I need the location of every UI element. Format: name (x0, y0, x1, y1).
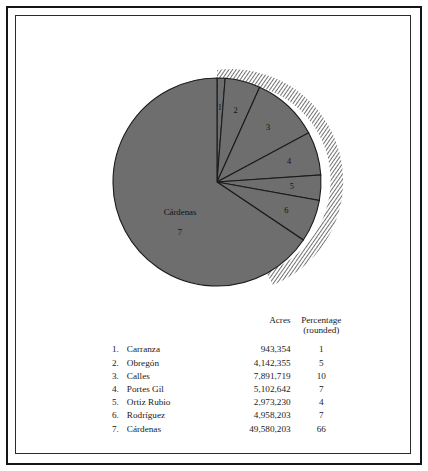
pie-slice-label-6: 6 (284, 206, 288, 215)
header-rank (112, 316, 125, 326)
pie-chart-figure: 123456 Cárdenas 7 (0, 40, 428, 308)
pie-slice-label-5: 5 (290, 182, 294, 191)
pie-slice-label-1: 1 (218, 103, 222, 112)
row-percentage: 5 (291, 355, 352, 368)
row-percentage: 1 (291, 341, 352, 354)
row-acres: 4,142,355 (217, 355, 290, 368)
row-acres: 943,354 (217, 341, 290, 354)
header-acres: Acres (217, 316, 290, 326)
row-name: Rodríguez (125, 407, 218, 420)
row-name: Ortiz Rubio (125, 394, 218, 407)
pie-slice-label-3: 3 (266, 123, 270, 132)
row-name: Carranza (125, 341, 218, 354)
table-head: Acres Percentage (rounded) (112, 316, 352, 341)
header-percentage-sub: (rounded) (291, 326, 352, 341)
table-row: 3. Calles 7,891,719 10 (112, 368, 352, 381)
row-percentage: 7 (291, 407, 352, 420)
header-rank-spacer (112, 326, 125, 341)
header-name (125, 316, 218, 326)
table-row: 2. Obregón 4,142,355 5 (112, 355, 352, 368)
row-name: Obregón (125, 355, 218, 368)
row-acres: 7,891,719 (217, 368, 290, 381)
row-rank: 4. (112, 381, 125, 394)
land-distribution-table: Acres Percentage (rounded) 1. Carranza 9… (112, 316, 352, 434)
table-header-row-2: (rounded) (112, 326, 352, 341)
row-acres: 2,973,230 (217, 394, 290, 407)
pie-chart-svg: 123456 Cárdenas 7 (0, 40, 428, 308)
row-percentage: 10 (291, 368, 352, 381)
pie-center-label: Cárdenas (164, 207, 197, 217)
row-name: Calles (125, 368, 218, 381)
table-row: 7. Cárdenas 49,580,203 66 (112, 421, 352, 434)
row-name: Cárdenas (125, 421, 218, 434)
row-acres: 49,580,203 (217, 421, 290, 434)
page-canvas: 123456 Cárdenas 7 Acres Percentage (0, 0, 428, 471)
table-row: 6. Rodríguez 4,958,203 7 (112, 407, 352, 420)
pie-slice-label-2: 2 (234, 106, 238, 115)
table-body: 1. Carranza 943,354 1 2. Obregón 4,142,3… (112, 341, 352, 433)
row-acres: 4,958,203 (217, 407, 290, 420)
row-rank: 5. (112, 394, 125, 407)
data-table-container: Acres Percentage (rounded) 1. Carranza 9… (112, 316, 352, 434)
pie-center-number: 7 (178, 227, 183, 237)
table-row: 5. Ortiz Rubio 2,973,230 4 (112, 394, 352, 407)
row-name: Portes Gil (125, 381, 218, 394)
row-percentage: 66 (291, 421, 352, 434)
row-acres: 5,102,642 (217, 381, 290, 394)
header-name-spacer (125, 326, 218, 341)
row-rank: 3. (112, 368, 125, 381)
row-rank: 7. (112, 421, 125, 434)
row-rank: 2. (112, 355, 125, 368)
row-rank: 1. (112, 341, 125, 354)
row-percentage: 4 (291, 394, 352, 407)
row-rank: 6. (112, 407, 125, 420)
header-acres-spacer (217, 326, 290, 341)
table-row: 1. Carranza 943,354 1 (112, 341, 352, 354)
row-percentage: 7 (291, 381, 352, 394)
table-row: 4. Portes Gil 5,102,642 7 (112, 381, 352, 394)
